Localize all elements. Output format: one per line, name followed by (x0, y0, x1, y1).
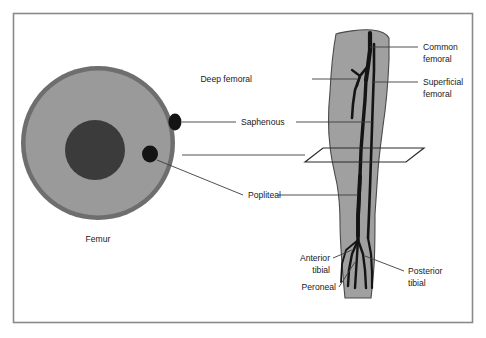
femur-caption: Femur (86, 234, 111, 244)
label-saphenous: Saphenous (241, 117, 285, 127)
label-common-femoral-line2: femoral (423, 54, 452, 64)
label-superficial-femoral-line1: Superficial (423, 77, 463, 87)
label-superficial-femoral-line2: femoral (423, 89, 452, 99)
arterial-anatomy-diagram: Femur (0, 0, 486, 338)
popliteal-artery (358, 176, 360, 236)
label-posterior-tibial-line2: tibial (408, 278, 426, 288)
label-peroneal: Peroneal (302, 282, 336, 292)
saphenous-vessel-dot (169, 114, 182, 131)
popliteal-vessel-dot (142, 146, 158, 163)
label-anterior-tibial-line2: tibial (312, 265, 330, 275)
label-deep-femoral: Deep femoral (200, 74, 252, 84)
label-posterior-tibial-line1: Posterior (408, 266, 443, 276)
label-popliteal: Popliteal (248, 190, 281, 200)
femur-marrow-core (65, 120, 125, 180)
label-anterior-tibial-line1: Anterior (300, 253, 330, 263)
label-common-femoral-line1: Common (423, 42, 458, 52)
